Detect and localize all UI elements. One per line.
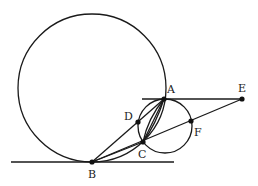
- point-d: [135, 119, 140, 124]
- point-e: [239, 96, 244, 101]
- label-c: C: [138, 148, 146, 161]
- lines-group: [11, 99, 242, 162]
- segment-bc: [92, 142, 143, 162]
- point-b: [89, 159, 94, 164]
- labels-group: ABCDEF: [88, 82, 246, 181]
- small-circle: [138, 99, 192, 153]
- label-d: D: [124, 110, 133, 123]
- label-e: E: [238, 82, 246, 95]
- label-b: B: [88, 168, 96, 181]
- point-a: [161, 96, 166, 101]
- geometry-diagram: ABCDEF: [0, 0, 258, 186]
- label-f: F: [194, 126, 202, 139]
- point-c: [140, 139, 145, 144]
- label-a: A: [166, 83, 176, 96]
- circles-group: [18, 14, 192, 162]
- point-f: [188, 118, 193, 123]
